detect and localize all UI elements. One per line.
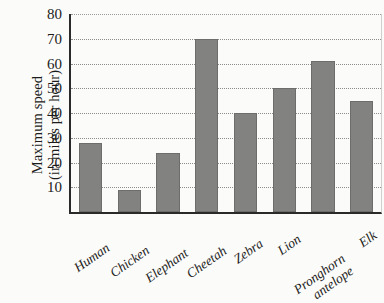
bar [195, 39, 218, 212]
bar [156, 153, 179, 212]
bar [234, 113, 257, 212]
x-axis-tick-label: Elk [357, 228, 380, 250]
y-axis-tick-label: 30 [22, 130, 62, 145]
bar-slot [265, 14, 304, 212]
bar [273, 88, 296, 212]
x-axis-tick-label-line: Human [72, 241, 113, 276]
x-axis-tick-label: Pronghornantelope [292, 252, 357, 303]
y-axis-tick-label: 20 [22, 155, 62, 170]
x-axis-tick-label-line: Elk [357, 228, 380, 250]
bar-slot [110, 14, 149, 212]
x-axis-tick-label: Zebra [231, 237, 266, 268]
bar-slot [187, 14, 226, 212]
bar [118, 190, 141, 212]
y-axis-tick-label: 10 [22, 180, 62, 195]
y-axis-title-line-1: Maximum speed [29, 25, 46, 225]
x-axis-tick-label-line: Cheetah [184, 244, 229, 282]
y-axis-tick-label: 40 [22, 106, 62, 121]
x-axis-tick-label: Human [72, 241, 113, 276]
y-axis-tick-label: 70 [22, 31, 62, 46]
bar [350, 101, 373, 212]
x-axis-tick-label: Lion [275, 232, 304, 258]
bar-slot [149, 14, 188, 212]
x-axis-tick-label-line: Zebra [231, 237, 266, 268]
y-axis-tick-label: 50 [22, 81, 62, 96]
y-axis-tick-label: 80 [22, 7, 62, 22]
bar-slot [71, 14, 110, 212]
bar-slot [342, 14, 381, 212]
bar [311, 61, 334, 212]
plot-area: 1020304050607080 [69, 14, 382, 214]
y-axis-tick-label: 60 [22, 56, 62, 71]
x-axis-tick-label-line: Lion [275, 232, 304, 258]
bar [79, 143, 102, 212]
bar-slot [226, 14, 265, 212]
bar-slot [304, 14, 343, 212]
x-axis-tick-label: Cheetah [184, 244, 229, 282]
bars [71, 14, 381, 212]
